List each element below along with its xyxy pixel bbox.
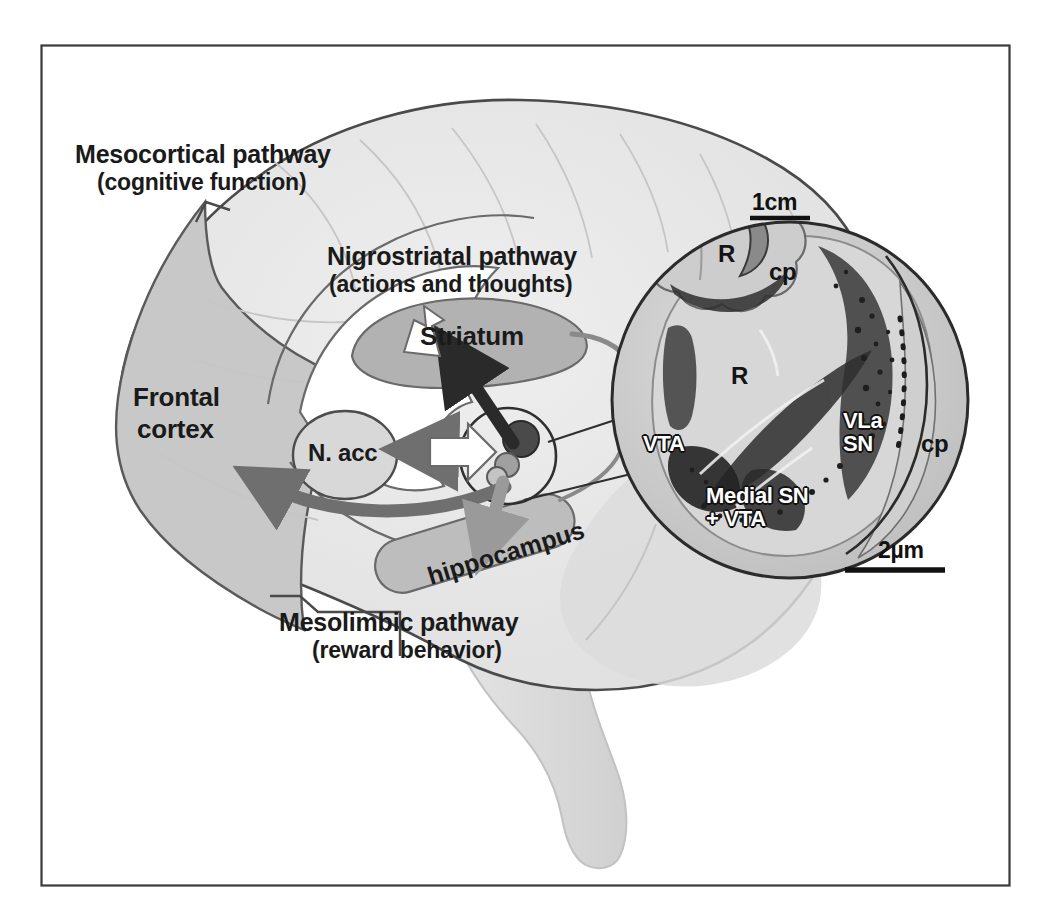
scalebar-label-1cm: 1cm	[752, 190, 797, 214]
region-label-frontal-cortex-line1: Frontal	[133, 383, 220, 412]
figure-root: Mesocortical pathway (cognitive function…	[0, 0, 1048, 916]
scalebar-label-2um: 2µm	[878, 538, 924, 562]
pathway-label-mesolimbic-subtitle: (reward behavior)	[312, 638, 502, 664]
inset-label-medial-sn-vta: Medial SN + VTA	[706, 484, 808, 530]
inset-label-thumbnail-cp: cp	[769, 259, 796, 284]
brain-diagram-canvas	[0, 0, 1048, 916]
pathway-label-mesolimbic-title: Mesolimbic pathway	[279, 608, 519, 636]
region-label-frontal-cortex-line2: cortex	[137, 415, 214, 444]
region-label-nucleus-accumbens: N. acc	[308, 440, 378, 467]
pathway-label-nigrostriatal-title: Nigrostriatal pathway	[327, 242, 577, 270]
inset-label-thumbnail-R: R	[718, 241, 735, 266]
inset-label-cp-right: cp	[921, 431, 948, 456]
pathway-label-mesocortical-subtitle: (cognitive function)	[97, 170, 306, 196]
inset-label-vta: VTA	[643, 432, 684, 455]
pathway-label-mesocortical-title: Mesocortical pathway	[75, 140, 331, 168]
region-label-striatum: Striatum	[420, 322, 524, 351]
pathway-label-nigrostriatal-subtitle: (actions and thoughts)	[329, 272, 572, 298]
inset-label-red-nucleus-R: R	[731, 363, 748, 388]
sn-left-dark-strip	[663, 325, 697, 430]
inset-label-vla-sn: VLa SN	[843, 409, 882, 455]
